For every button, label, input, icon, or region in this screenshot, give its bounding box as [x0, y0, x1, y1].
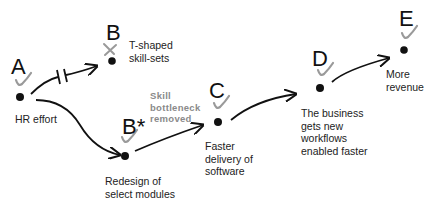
edge-a-to-bstar [36, 100, 120, 155]
node-dot-a [16, 93, 24, 101]
node-label-d: The business gets new workflows enabled … [301, 107, 368, 157]
cross-icon-b [104, 44, 116, 55]
node-letter-bstar: B* [122, 116, 145, 138]
edge-a-to-b-blocked-2 [66, 66, 97, 75]
node-label-b: T-shaped skill-sets [129, 39, 173, 64]
edge-c-to-d [231, 94, 296, 120]
node-dot-c [214, 118, 222, 126]
node-dot-b [108, 57, 116, 65]
node-letter-a: A [11, 56, 26, 78]
node-dot-bstar [121, 152, 129, 160]
node-label-bstar: Redesign of select modules [105, 175, 175, 200]
edge-d-to-e [332, 58, 389, 82]
node-letter-e: E [399, 8, 414, 30]
node-letter-c: C [209, 80, 225, 102]
node-letter-b: B [106, 22, 121, 44]
node-letter-d: D [312, 48, 328, 70]
node-label-c: Faster delivery of software [205, 140, 253, 178]
node-dot-d [316, 84, 324, 92]
node-label-e: More revenue [386, 68, 424, 93]
annotation-skill-bottleneck: Skill bottleneck removed [150, 90, 201, 125]
node-dot-e [400, 46, 408, 54]
edge-a-to-b-blocked [31, 77, 58, 94]
node-label-a: HR effort [15, 113, 57, 126]
